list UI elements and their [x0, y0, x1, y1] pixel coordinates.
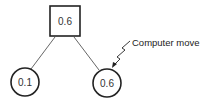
root-node: 0.6	[50, 6, 80, 36]
right-child-node: 0.6	[93, 69, 121, 97]
root-node-value: 0.6	[58, 16, 72, 27]
annotation-label: Computer move	[132, 37, 200, 48]
edge-root-left	[31, 37, 55, 69]
right-child-value: 0.6	[100, 78, 114, 89]
game-tree-diagram: 0.6 0.1 0.6 Computer move	[0, 0, 224, 106]
left-child-value: 0.1	[18, 77, 32, 88]
annotation-arrow-icon	[112, 41, 130, 68]
edge-root-right	[74, 37, 99, 70]
left-child-node: 0.1	[11, 68, 39, 96]
